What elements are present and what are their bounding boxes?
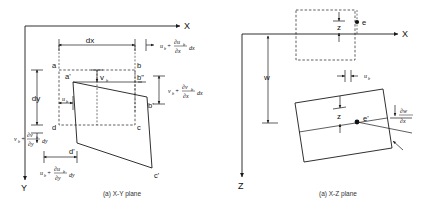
formula-ubdy-term1: u (40, 170, 43, 176)
formula-vbdx-den: ∂x (183, 93, 189, 99)
w-label: w (263, 73, 270, 82)
formula-ubdy-tail: dy (69, 172, 75, 178)
formula-vbdx-num: ∂v (182, 84, 188, 90)
deformed-element-xz (295, 89, 392, 162)
vertex-d-prime-label: d' (69, 147, 75, 156)
formula-ubdx-term1: u (160, 43, 163, 49)
formula-ub-dy: u b + ∂u b ∂y dy (40, 166, 75, 181)
formula-vb-dx: v b + ∂v b ∂x dx (168, 84, 203, 99)
diagram-svg: X Y dx dy a b c d a' b' c' d' b" v b u b (0, 0, 429, 208)
formula-ubdy-den: ∂y (55, 175, 61, 181)
slope-numerator: ∂w (400, 108, 407, 114)
right-panel-caption: (a) X-Z plane (319, 190, 357, 198)
left-panel-caption: (a) X-Y plane (103, 190, 142, 198)
formula-vbdy-term1: v (14, 136, 17, 142)
right-z-axis-label: Z (238, 181, 244, 191)
formula-ubdx-tail: dx (189, 45, 195, 51)
ub-sub-xz: b (368, 76, 370, 81)
formula-ubdy-num: ∂u (54, 166, 60, 172)
formula-vbdx-term1: v (168, 88, 171, 94)
formula-vbdx-tail: dx (197, 90, 203, 96)
left-y-axis-label: Y (21, 183, 27, 193)
ub-sub: b (66, 99, 68, 104)
vertex-a-prime-label: a' (65, 72, 71, 81)
z-bottom-label: z (337, 112, 341, 121)
formula-vbdy-num: ∂v (27, 132, 33, 138)
vertex-b-prime-label: b' (148, 101, 154, 110)
formula-vbdy-tail: dy (42, 138, 48, 144)
vertex-d-label: d (52, 123, 56, 132)
vb-label: v b (100, 73, 108, 83)
ub-base-xz: u (364, 73, 367, 79)
left-panel-group: X Y dx dy a b c d a' b' c' d' b" v b u b (14, 21, 203, 198)
formula-ubdx-plus: + (167, 43, 171, 49)
ubx-dimension-tick (146, 39, 154, 51)
formula-vb-dy: v b + ∂v b ∂y dy (14, 132, 48, 147)
dx-dimension (59, 39, 135, 51)
left-x-axis-label: X (184, 21, 190, 31)
formula-ubdx-num: ∂u (174, 39, 180, 45)
vertex-b-label: b (137, 61, 141, 70)
vertex-b-double-prime-label: b" (137, 73, 144, 82)
formula-vbdx-plus: + (175, 88, 179, 94)
undeformed-element-xz (296, 10, 355, 60)
slope-dwdx-label: ∂w ∂x (399, 108, 413, 124)
formula-ubdy-plus: + (47, 170, 51, 176)
right-x-axis-label: X (402, 29, 408, 39)
z-top-label: z (337, 23, 341, 32)
formula-vbdy-term1-sub: b (18, 139, 20, 144)
formula-vbdy-plus: + (21, 136, 25, 142)
dy-label: dy (32, 94, 40, 103)
vbx-dimension (153, 76, 165, 104)
formula-vbdx-term1-sub: b (172, 91, 174, 96)
slope-denominator: ∂x (400, 118, 406, 124)
ub-label-xz: u b (364, 73, 370, 81)
ub-base: u (62, 96, 65, 102)
vertex-a-label: a (52, 61, 57, 70)
formula-ubdx-den: ∂x (175, 48, 181, 54)
ub-dimension-xz (337, 70, 358, 82)
vertex-c-prime-label: c' (154, 171, 160, 180)
dx-label: dx (86, 36, 94, 45)
vb-sub: b (106, 78, 108, 83)
formula-ub-dx: u b + ∂u b ∂x dx (160, 39, 195, 54)
vb-base: v (100, 73, 104, 82)
point-e-label: e (362, 18, 366, 27)
formula-ubdy-term1-sub: b (44, 173, 46, 178)
formula-ubdx-term1-sub: b (164, 46, 166, 51)
point-e-prime-label: e' (363, 114, 369, 123)
right-panel-group: X Z w z z e e' u b ∂w ∂x (a) X-Z plane (238, 10, 413, 198)
formula-vbdy-den: ∂y (28, 141, 34, 147)
figure-container: X Y dx dy a b c d a' b' c' d' b" v b u b (0, 0, 429, 208)
vertex-c-label: c (137, 123, 141, 132)
